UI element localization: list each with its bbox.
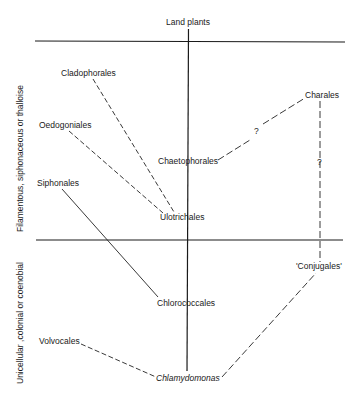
edge-ulotrichales-cladophorales: [93, 79, 174, 212]
label-charales: Charales: [305, 90, 339, 100]
label-siphonales: Siphonales: [37, 178, 79, 188]
zone-label-upper: Filamentous, siphonaceous or thalloise: [15, 85, 25, 232]
algae-phylogeny-diagram: Land plants Cladophorales Oedogoniales S…: [0, 0, 363, 408]
question-mark-charales-conjugales: ?: [317, 157, 322, 167]
main-lineage-line: [187, 29, 189, 371]
edge-chlamydomonas-conjugales: [222, 273, 316, 377]
edge-ulotrichales-oedogoniales: [69, 131, 163, 213]
zone-label-lower: Unicellular ,colonial or coenobial: [15, 262, 25, 384]
edge-chaetophorales-charales-upper: [263, 98, 305, 124]
label-ulotrichales: Ulotrichales: [160, 212, 204, 222]
edge-chaetophorales-charales: [218, 140, 250, 160]
label-chlamydomonas: Chlamydomonas: [156, 373, 221, 383]
label-volvocales: Volvocales: [39, 336, 80, 346]
label-oedogoniales: Oedogoniales: [39, 120, 91, 130]
label-chaetophorales: Chaetophorales: [158, 156, 218, 166]
upper-boundary-line: [35, 41, 345, 42]
label-cladophorales: Cladophorales: [61, 68, 116, 78]
label-chlorococcales: Chlorococcales: [157, 298, 215, 308]
edge-chlamydomonas-volvocales: [81, 344, 156, 377]
label-conjugales: 'Conjugales': [296, 261, 342, 271]
question-mark-chaeto-charales: ?: [254, 126, 259, 136]
label-land-plants: Land plants: [166, 17, 210, 27]
edge-chlorococcales-siphonales: [62, 189, 158, 297]
